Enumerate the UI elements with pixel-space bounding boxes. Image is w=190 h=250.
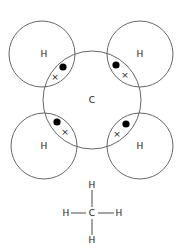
hydrogen-label-top-left: H xyxy=(41,49,48,59)
electron-dot-top-left xyxy=(59,63,66,70)
hydrogen-label-bottom-right: H xyxy=(137,141,144,151)
formula-carbon: C xyxy=(89,208,95,218)
formula-hydrogen-left: H xyxy=(63,208,70,218)
methane-diagram: C H H H H × × × × C H H H H xyxy=(0,0,190,250)
structural-formula: C H H H H xyxy=(63,180,123,245)
hydrogen-label-top-right: H xyxy=(137,49,144,59)
electron-dot-bottom-left xyxy=(53,118,60,125)
formula-hydrogen-right: H xyxy=(116,208,123,218)
electron-dot-top-right xyxy=(112,61,119,68)
electron-cross-top-left: × xyxy=(51,72,59,82)
electron-cross-top-right: × xyxy=(121,70,129,80)
carbon-label: C xyxy=(89,95,95,105)
electron-dot-bottom-right xyxy=(122,120,129,127)
electron-cross-bottom-right: × xyxy=(113,129,121,139)
formula-hydrogen-bottom: H xyxy=(89,235,96,245)
formula-hydrogen-top: H xyxy=(89,180,96,190)
hydrogen-label-bottom-left: H xyxy=(41,141,48,151)
electron-cross-bottom-left: × xyxy=(61,127,69,137)
